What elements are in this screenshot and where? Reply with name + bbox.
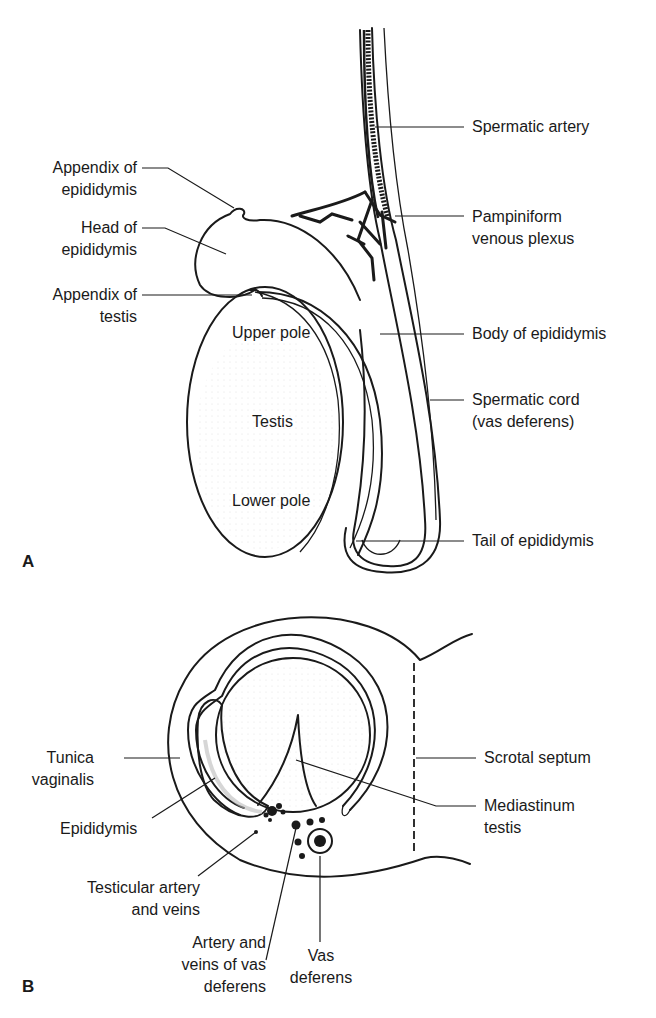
label-mediastinum-testis: Mediastinum testis [484, 795, 575, 839]
label-pampiniform-venous-plexus: Pampiniform venous plexus [472, 206, 574, 250]
label-vas-deferens: Vas deferens [283, 945, 359, 989]
label-appendix-of-testis: Appendix of testis [52, 284, 137, 328]
label-testicular-artery-and-veins: Testicular artery and veins [87, 877, 200, 921]
label-tunica-vaginalis: Tunica vaginalis [32, 747, 94, 791]
label-epididymis: Epididymis [60, 818, 137, 840]
label-artery-and-veins-of-vas-deferens: Artery and veins of vas deferens [182, 932, 266, 998]
label-appendix-of-epididymis: Appendix of epididymis [52, 157, 137, 201]
anatomy-figure [0, 0, 656, 1018]
label-spermatic-artery: Spermatic artery [472, 116, 589, 138]
label-testis: Testis [252, 411, 293, 433]
label-head-of-epididymis: Head of epididymis [61, 217, 137, 261]
panel-letter-a: A [22, 552, 34, 572]
panel-letter-b: B [22, 977, 34, 997]
label-body-of-epididymis: Body of epididymis [472, 323, 606, 345]
label-scrotal-septum: Scrotal septum [484, 747, 591, 769]
vas-deferens-vessels [292, 817, 333, 859]
label-spermatic-cord: Spermatic cord (vas deferens) [472, 389, 580, 433]
testicular-vessels [254, 803, 286, 834]
label-upper-pole: Upper pole [232, 322, 310, 344]
epididymis-head-shape [195, 209, 360, 300]
label-lower-pole: Lower pole [232, 490, 310, 512]
label-tail-of-epididymis: Tail of epididymis [472, 530, 594, 552]
